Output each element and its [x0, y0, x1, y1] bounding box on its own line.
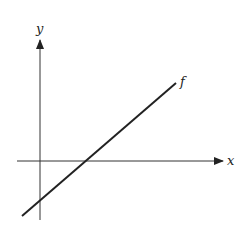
graph-svg: y x f: [0, 0, 243, 230]
x-axis-label: x: [227, 153, 235, 168]
graph-figure: y x f: [0, 0, 243, 230]
curve-label-f: f: [179, 74, 187, 89]
line-f: [22, 83, 176, 216]
y-axis-label: y: [35, 21, 44, 36]
